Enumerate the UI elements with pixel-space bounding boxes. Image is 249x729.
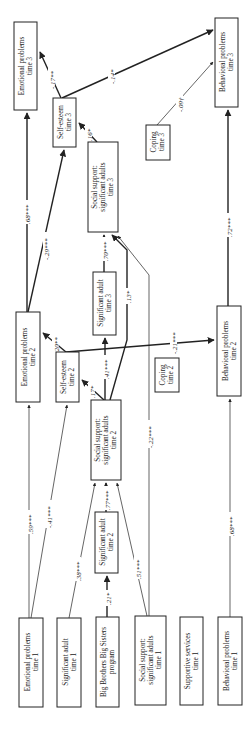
- edge-se2-bp2: [66, 340, 214, 352]
- node-emotional-problems-t3: Emotional problems time 3: [14, 22, 37, 110]
- svg-text:Social support:: Social support:: [94, 418, 102, 461]
- svg-text:time 1: time 1: [231, 652, 239, 671]
- nodes: Emotional problems time 3 Self-esteem ti…: [14, 18, 242, 707]
- svg-text:Coping: Coping: [159, 364, 167, 386]
- edge-cp3-bp3: [157, 62, 213, 125]
- node-emotional-problems-t2: Emotional problems time 2: [16, 312, 40, 402]
- node-significant-adult-t1: Significant adult time 1: [57, 618, 81, 707]
- edge-ss1-ss3: [118, 236, 149, 616]
- svg-text:significant adults: significant adults: [147, 635, 155, 685]
- svg-text:time 3: time 3: [65, 113, 73, 132]
- svg-text:Emotional problems: Emotional problems: [18, 37, 26, 96]
- node-behavioral-problems-t1: Behavioral problems time 1: [218, 617, 242, 705]
- svg-text:Behavioral problems: Behavioral problems: [219, 32, 227, 92]
- coef-ss3-se3: .16*: [86, 128, 94, 141]
- edge-ep2-se3: [28, 150, 64, 312]
- svg-text:Significant adult: Significant adult: [99, 518, 107, 566]
- svg-text:time 2: time 2: [68, 368, 76, 387]
- svg-text:significant adults: significant adults: [99, 162, 107, 212]
- coef-se2-ep2: .20**: [53, 337, 61, 353]
- svg-text:Social support:: Social support:: [91, 165, 99, 208]
- svg-text:significant adults: significant adults: [102, 415, 110, 465]
- coef-ss2-sa3: .41***: [103, 359, 111, 379]
- node-big-brothers-big-sisters: Big Brothers Big Sisters program: [96, 617, 119, 707]
- svg-text:time 2: time 2: [230, 342, 238, 361]
- node-social-support-t2: Social support: significant adults time …: [91, 400, 121, 480]
- node-behavioral-problems-t3: Behavioral problems time 3: [215, 18, 238, 107]
- svg-text:Emotional problems: Emotional problems: [21, 328, 29, 387]
- coef-ep1-ep2: .59***: [27, 514, 35, 534]
- svg-text:time 2: time 2: [29, 348, 37, 367]
- node-behavioral-problems-t2: Behavioral problems time 2: [217, 306, 241, 396]
- coef-sa3-ss3: .70***: [102, 241, 110, 261]
- edge-sa1-ss2: [69, 483, 95, 618]
- svg-text:time 1: time 1: [32, 653, 40, 672]
- svg-text:time 1: time 1: [192, 652, 200, 671]
- node-self-esteem-t3: Self-esteem time 3: [53, 98, 76, 147]
- coef-bp2-bp3: .72***: [226, 217, 234, 237]
- svg-text:time 2: time 2: [107, 533, 115, 552]
- svg-text:Behavioral problems: Behavioral problems: [222, 321, 230, 381]
- node-supportive-services-t1: Supportive services time 1: [180, 617, 203, 705]
- coef-ss2-se2: .17*: [89, 385, 97, 398]
- coef-ss1-ss3: -.22***: [147, 426, 155, 448]
- coef-se2-bp2: -.21***: [171, 332, 179, 354]
- svg-text:time 3: time 3: [227, 53, 235, 72]
- coef-bp1-bp2: .68***: [228, 516, 236, 536]
- svg-text:Significant adult: Significant adult: [97, 279, 105, 327]
- svg-text:Significant adult: Significant adult: [62, 638, 70, 686]
- svg-text:time 3: time 3: [105, 294, 113, 313]
- coef-se3-ep3: -.17**: [49, 70, 57, 89]
- svg-text:Emotional problems: Emotional problems: [24, 633, 32, 692]
- svg-text:program: program: [108, 649, 116, 674]
- coef-cp3-bp3: -.09†: [177, 97, 185, 112]
- edge-ss1-ss2: [117, 483, 147, 616]
- svg-text:time 3: time 3: [158, 133, 166, 152]
- svg-text:time 1: time 1: [155, 651, 163, 670]
- svg-text:Behavioral problems: Behavioral problems: [223, 631, 231, 691]
- node-emotional-problems-t1: Emotional problems time 1: [19, 618, 43, 707]
- coef-se3-bp3: -.14*: [109, 69, 117, 84]
- coef-ep1-se2: -.41***: [46, 506, 54, 528]
- path-diagram: .68*** -.29*** -.17** -.14* .16* -.09† .…: [0, 0, 249, 729]
- coef-ss1-ss2: .51***: [135, 559, 143, 579]
- svg-text:time 3: time 3: [107, 178, 115, 197]
- node-social-support-t3: Social support: significant adults time …: [88, 142, 118, 232]
- svg-text:Big Brothers Big Sisters: Big Brothers Big Sisters: [100, 627, 108, 697]
- svg-text:time 3: time 3: [26, 57, 34, 76]
- node-social-support-t1: Social support: significant adults time …: [135, 616, 166, 705]
- svg-text:Coping: Coping: [150, 131, 158, 153]
- coef-sa1-ss2: .38***: [75, 561, 83, 581]
- svg-text:time 2: time 2: [167, 366, 175, 385]
- svg-text:Social support:: Social support:: [139, 638, 147, 681]
- svg-text:time 2: time 2: [110, 431, 118, 450]
- coef-ep2-se3: -.29***: [43, 238, 51, 260]
- svg-text:Self-esteem: Self-esteem: [60, 360, 68, 394]
- coef-bbbs-sa2: .21*: [105, 592, 113, 605]
- node-significant-adult-t2: Significant adult time 2: [95, 512, 118, 573]
- svg-text:Self-esteem: Self-esteem: [57, 105, 65, 139]
- coef-ep2-ep3: .68***: [24, 204, 32, 224]
- node-self-esteem-t2: Self-esteem time 2: [56, 352, 79, 402]
- coef-sa2-ss2: .77***: [104, 490, 112, 510]
- svg-text:time 1: time 1: [70, 653, 78, 672]
- coef-ss2-ss3: .13*: [125, 290, 133, 303]
- node-coping-t2: Coping time 2: [155, 358, 179, 392]
- node-significant-adult-t3: Significant adult time 3: [93, 272, 116, 335]
- node-coping-t3: Coping time 3: [146, 125, 170, 160]
- svg-text:Supportive services: Supportive services: [184, 633, 192, 690]
